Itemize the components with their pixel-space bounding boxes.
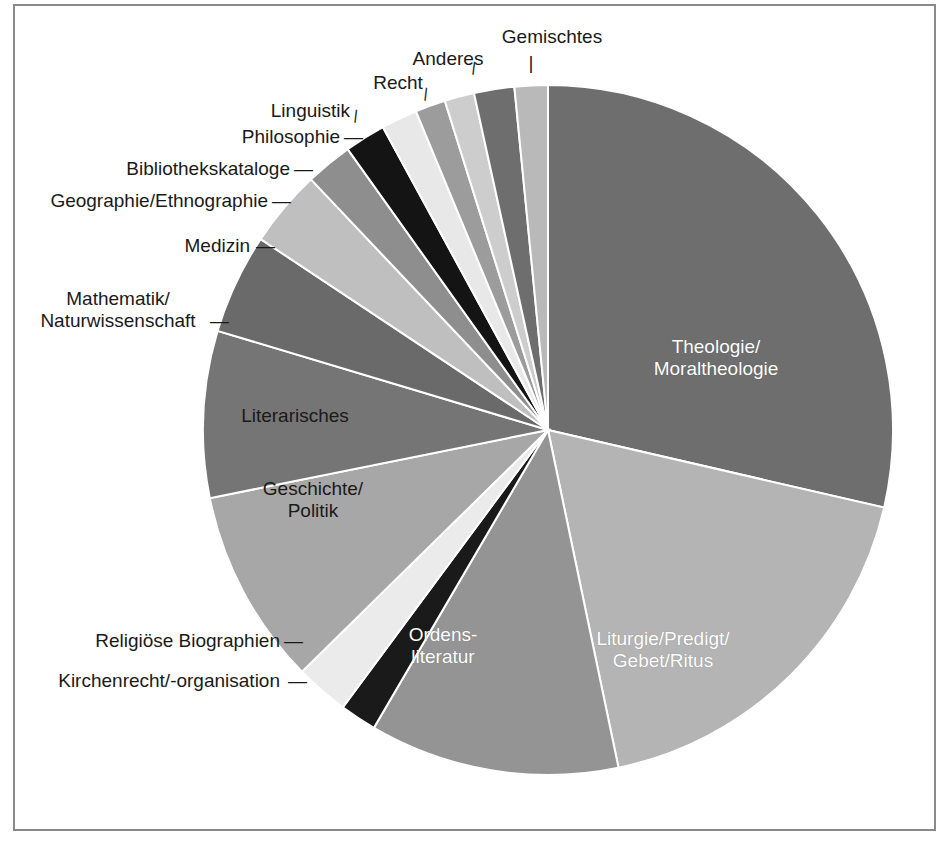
- slice-label-ordensliteratur: Ordens- literatur: [388, 624, 498, 669]
- leader-bibliothekskataloge: —: [294, 158, 316, 180]
- slice-label-kirchenrecht: Kirchenrecht/-organisation: [8, 670, 280, 692]
- leader-mathematik: —: [210, 310, 232, 332]
- slice-label-literarisches: Literarisches: [230, 405, 360, 427]
- slice-label-gemischtes: Gemischtes: [487, 26, 617, 48]
- slice-label-geschichte: Geschichte/ Politik: [248, 478, 378, 523]
- slice-label-linguistik: Linguistik: [190, 100, 350, 122]
- leader-religioese: —: [284, 630, 306, 652]
- slice-label-mathematik: Mathematik/ Naturwissenschaft: [28, 288, 208, 333]
- slice-label-medizin: Medizin: [100, 235, 250, 257]
- slice-label-geographie: Geographie/Ethnographie: [12, 190, 268, 212]
- leader-gemischtes: |: [523, 52, 539, 74]
- leader-geographie: —: [272, 190, 294, 212]
- figure-root: Theologie/ Moraltheologie Liturgie/Predi…: [0, 0, 944, 844]
- slice-label-bibliothekskataloge: Bibliothekskataloge: [60, 158, 290, 180]
- slice-label-religioese: Religiöse Biographien: [20, 630, 280, 652]
- leader-kirchenrecht: —: [288, 670, 310, 692]
- slice-label-philosophie: Philosophie: [140, 126, 340, 148]
- leader-philosophie: —: [344, 126, 366, 148]
- slice-label-theologie: Theologie/ Moraltheologie: [616, 336, 816, 381]
- leader-medizin: —: [256, 235, 278, 257]
- pie-chart: Theologie/ Moraltheologie Liturgie/Predi…: [0, 0, 944, 844]
- slice-label-liturgie: Liturgie/Predigt/ Gebet/Ritus: [558, 628, 768, 673]
